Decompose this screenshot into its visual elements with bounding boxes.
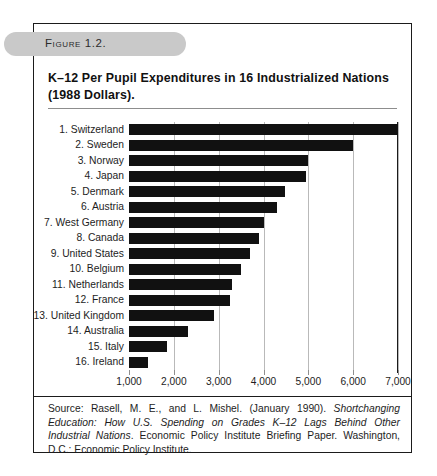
bar-rows: 1. Switzerland2. Sweden3. Norway4. Japan… <box>129 122 398 370</box>
x-tick-label: 2,000 <box>161 376 187 387</box>
bar-row: 9. United States <box>129 246 398 261</box>
x-tick-mark <box>129 370 130 375</box>
bar-row: 5. Denmark <box>129 184 398 199</box>
x-tick-label: 7,000 <box>385 376 411 387</box>
figure-title-line-1: K–12 Per Pupil Expenditures in 16 Indust… <box>48 70 393 87</box>
bar-row: 4. Japan <box>129 169 398 184</box>
x-tick-label: 4,000 <box>251 376 277 387</box>
source-divider <box>34 396 411 397</box>
bar-row: 16. Ireland <box>129 355 398 370</box>
x-tick-mark <box>398 370 399 375</box>
x-tick-label: 1,000 <box>116 376 142 387</box>
category-label: 16. Ireland <box>75 354 124 369</box>
bar-row: 3. Norway <box>129 153 398 168</box>
bar <box>129 217 264 228</box>
bar-row: 12. France <box>129 293 398 308</box>
category-label: 10. Belgium <box>70 261 124 276</box>
bar <box>129 248 250 259</box>
figure-number-label: Figure 1.2. <box>45 37 106 49</box>
category-label: 14. Australia <box>67 323 124 338</box>
bar <box>129 264 241 275</box>
x-tick-mark <box>174 370 175 375</box>
category-label: 6. Austria <box>81 199 124 214</box>
figure-title: K–12 Per Pupil Expenditures in 16 Indust… <box>48 70 393 103</box>
category-label: 1. Switzerland <box>59 122 124 137</box>
category-label: 13. United Kingdom <box>34 308 124 323</box>
x-tick-mark <box>264 370 265 375</box>
bar <box>129 295 230 306</box>
category-label: 11. Netherlands <box>52 277 124 292</box>
x-tick-label: 5,000 <box>296 376 322 387</box>
bar <box>129 233 259 244</box>
category-label: 7. West Germany <box>44 215 124 230</box>
bar-row: 15. Italy <box>129 339 398 354</box>
bar <box>129 202 277 213</box>
bar-row: 13. United Kingdom <box>129 308 398 323</box>
bar-chart: 1. Switzerland2. Sweden3. Norway4. Japan… <box>48 118 400 383</box>
bar-row: 14. Australia <box>129 324 398 339</box>
x-tick-mark <box>219 370 220 375</box>
x-tick-label: 6,000 <box>340 376 366 387</box>
bar <box>129 171 306 182</box>
bar <box>129 155 308 166</box>
category-label: 8. Canada <box>76 230 124 245</box>
bar-row: 11. Netherlands <box>129 277 398 292</box>
category-label: 9. United States <box>51 246 124 261</box>
bar-row: 1. Switzerland <box>129 122 398 137</box>
category-label: 3. Norway <box>78 153 124 168</box>
source-prefix: Source: Rasell, M. E., and L. Mishel. (J… <box>48 403 334 414</box>
category-label: 4. Japan <box>84 168 124 183</box>
x-axis-ticks: 1,0002,0003,0004,0005,0006,0007,000 <box>129 370 398 396</box>
bar-row: 7. West Germany <box>129 215 398 230</box>
title-divider <box>48 108 397 109</box>
bar <box>129 341 167 352</box>
bar-row: 6. Austria <box>129 200 398 215</box>
plot-area: 1. Switzerland2. Sweden3. Norway4. Japan… <box>129 122 398 370</box>
x-tick-mark <box>308 370 309 375</box>
bar <box>129 326 188 337</box>
bar <box>129 310 214 321</box>
bar <box>129 140 353 151</box>
bar <box>129 124 398 135</box>
category-label: 12. France <box>75 292 124 307</box>
category-label: 5. Denmark <box>71 184 124 199</box>
figure-page: Figure 1.2. K–12 Per Pupil Expenditures … <box>0 0 437 476</box>
bar-row: 10. Belgium <box>129 262 398 277</box>
figure-title-line-2: (1988 Dollars). <box>48 87 393 104</box>
x-tick-label: 3,000 <box>206 376 232 387</box>
bar <box>129 279 232 290</box>
bar <box>129 357 148 368</box>
bar-row: 8. Canada <box>129 231 398 246</box>
bar-row: 2. Sweden <box>129 138 398 153</box>
bar <box>129 186 285 197</box>
x-tick-mark <box>353 370 354 375</box>
category-label: 2. Sweden <box>75 137 124 152</box>
category-label: 15. Italy <box>88 339 124 354</box>
source-note: Source: Rasell, M. E., and L. Mishel. (J… <box>48 402 400 456</box>
